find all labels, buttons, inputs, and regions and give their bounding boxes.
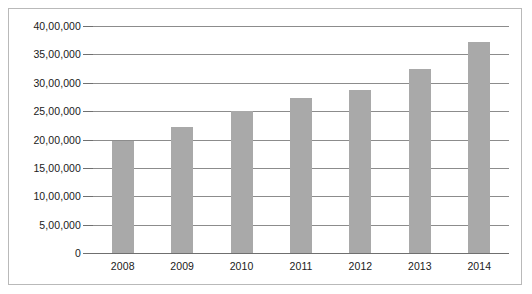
x-axis-tick-label: 2012 <box>330 260 390 272</box>
x-axis-tick-label: 2009 <box>152 260 212 272</box>
x-axis-tick-label: 2013 <box>390 260 450 272</box>
x-axis-tick-label: 2010 <box>212 260 272 272</box>
bars-group <box>9 9 523 286</box>
bar <box>349 90 371 253</box>
x-axis-tick-label: 2008 <box>93 260 153 272</box>
chart-frame: 05,00,00010,00,00015,00,00020,00,00025,0… <box>8 8 522 285</box>
x-axis-tick-label: 2014 <box>449 260 509 272</box>
bar <box>468 42 490 253</box>
x-axis-tick-label: 2011 <box>271 260 331 272</box>
x-axis-line <box>93 253 509 254</box>
bar <box>231 111 253 253</box>
bar <box>112 141 134 253</box>
bar <box>171 127 193 253</box>
bar <box>409 69 431 253</box>
plot-area: 05,00,00010,00,00015,00,00020,00,00025,0… <box>9 9 523 286</box>
bar <box>290 98 312 253</box>
